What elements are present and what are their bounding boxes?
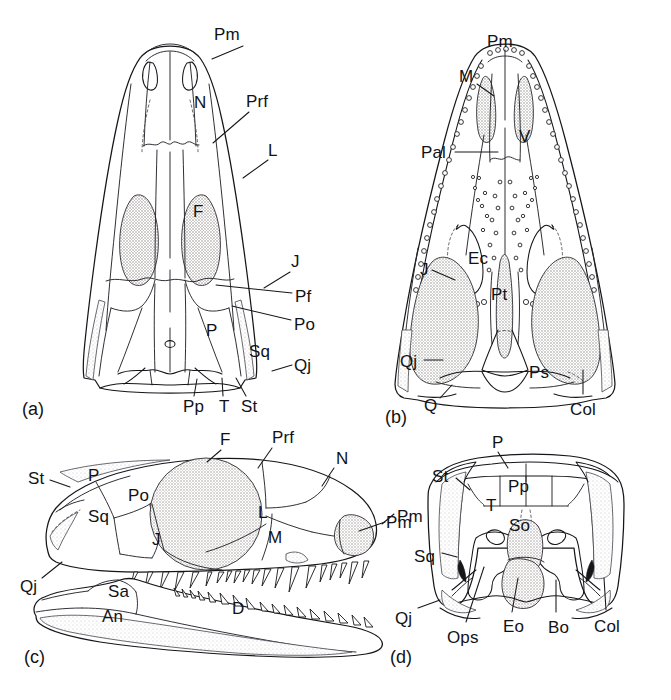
- label-b-pt: Pt: [491, 286, 507, 303]
- label-c-sq: Sq: [88, 508, 109, 525]
- panel-d-tag: (d): [390, 648, 412, 666]
- label-b-v: V: [519, 128, 530, 145]
- label-d-st: St: [432, 468, 448, 485]
- label-c-j: J: [152, 531, 161, 548]
- panel-a-drawing: [0, 0, 340, 420]
- label-a-po: Po: [294, 316, 315, 333]
- label-c-qj: Qj: [20, 578, 37, 595]
- skull-anatomy-figure: (a) Pm N Prf L F J Pf Po P Sq Qj Pp T St: [0, 0, 671, 700]
- panel-a-dorsal: (a) Pm N Prf L F J Pf Po P Sq Qj Pp T St: [0, 0, 340, 420]
- label-a-l: L: [268, 142, 278, 159]
- label-a-p: P: [206, 322, 217, 339]
- label-b-pm: Pm: [487, 33, 513, 50]
- label-d-so: So: [509, 517, 530, 534]
- label-a-j: J: [291, 253, 300, 270]
- label-a-qj: Qj: [294, 357, 311, 374]
- panel-d-occipital: (d) P St Pp T Pm So Sq Qj Ops Eo Bo Col: [380, 420, 671, 700]
- label-b-qj: Qj: [400, 353, 417, 370]
- label-a-pm: Pm: [214, 26, 240, 43]
- label-a-pp: Pp: [183, 398, 204, 415]
- label-b-ec: Ec: [468, 250, 488, 267]
- label-c-m: M: [268, 529, 282, 546]
- panel-c-tag: (c): [24, 648, 45, 666]
- label-d-qj: Qj: [395, 610, 412, 627]
- label-c-d: D: [232, 600, 244, 617]
- label-d-p: P: [492, 434, 503, 451]
- panel-a-tag: (a): [22, 400, 44, 418]
- label-c-po: Po: [128, 487, 149, 504]
- panel-b-drawing: [340, 0, 671, 430]
- label-c-f: F: [220, 431, 230, 448]
- label-c-n: N: [336, 450, 348, 467]
- label-b-col: Col: [570, 401, 596, 418]
- label-a-t: T: [219, 398, 229, 415]
- label-b-m: M: [459, 68, 473, 85]
- label-b-pal: Pal: [421, 144, 446, 161]
- label-a-n: N: [194, 94, 206, 111]
- panel-b-palatal: (b) Pm M V Pal Ec J Pt Qj Ps Q Col: [340, 0, 671, 430]
- label-c-sa: Sa: [108, 583, 129, 600]
- label-a-f: F: [193, 203, 203, 220]
- label-a-st: St: [241, 398, 257, 415]
- label-a-pf: Pf: [295, 288, 311, 305]
- label-d-sq: Sq: [414, 548, 435, 565]
- label-d-ops: Ops: [447, 629, 478, 646]
- label-b-q: Q: [424, 397, 437, 414]
- label-d-bo: Bo: [548, 619, 569, 636]
- label-b-ps: Ps: [529, 364, 549, 381]
- label-c-an: An: [102, 608, 123, 625]
- label-c-st: St: [28, 470, 44, 487]
- panel-c-lateral: (c) F Prf N St P Po Sq L Pm J M Qj Sa An…: [0, 420, 400, 700]
- label-c-prf: Prf: [272, 429, 294, 446]
- label-d-pm: Pm: [397, 508, 423, 525]
- label-d-eo: Eo: [503, 618, 524, 635]
- label-c-p: P: [88, 467, 99, 484]
- label-c-l: L: [258, 504, 268, 521]
- label-a-sq: Sq: [249, 343, 270, 360]
- label-a-prf: Prf: [246, 93, 268, 110]
- label-d-t: T: [486, 497, 496, 514]
- label-b-j: J: [420, 261, 429, 278]
- label-d-col: Col: [594, 618, 620, 635]
- label-d-pp: Pp: [508, 478, 529, 495]
